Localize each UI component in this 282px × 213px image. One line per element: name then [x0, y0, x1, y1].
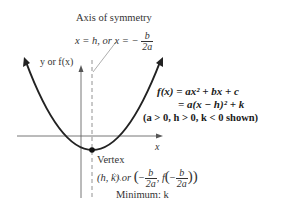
minimum-label: Minimum: k: [116, 189, 169, 201]
equation-vertex-form: = a(x − h)² + k: [178, 98, 244, 110]
y-axis-label: y or f(x): [40, 56, 73, 68]
equation-standard-form: f(x) = ax² + bx + c: [157, 85, 239, 97]
vertex-title: Vertex: [97, 154, 124, 166]
x-axis-label: x: [155, 141, 159, 153]
axis-of-symmetry-title: Axis of symmetry: [76, 12, 152, 24]
equation-conditions: (a > 0, h > 0, k < 0 shown): [143, 112, 258, 124]
axis-of-symmetry-equation: x = h, or x = − b2a: [75, 31, 153, 52]
fraction-b-over-2a: b2a: [141, 31, 153, 52]
y-axis-arrow-icon: [79, 65, 84, 72]
vertex-point: [89, 147, 95, 153]
parabola-curve: [26, 62, 160, 150]
vertex-coordinates: (h, k) or (−b2a, f(−b2a)): [97, 168, 198, 189]
x-axis-arrow-icon: [156, 134, 163, 139]
